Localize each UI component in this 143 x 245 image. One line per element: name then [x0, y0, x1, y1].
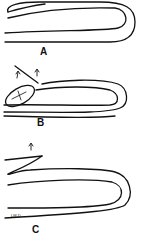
- panel-label-a: A: [40, 46, 47, 57]
- diagram-canvas: [0, 0, 143, 245]
- artist-signature: LM.D.: [11, 213, 22, 218]
- panel-label-c: C: [32, 224, 39, 235]
- panel-b-drawing: [2, 66, 126, 117]
- panel-c-drawing: [5, 143, 130, 218]
- panel-label-b: B: [37, 117, 44, 128]
- panel-a-drawing: [5, 2, 135, 42]
